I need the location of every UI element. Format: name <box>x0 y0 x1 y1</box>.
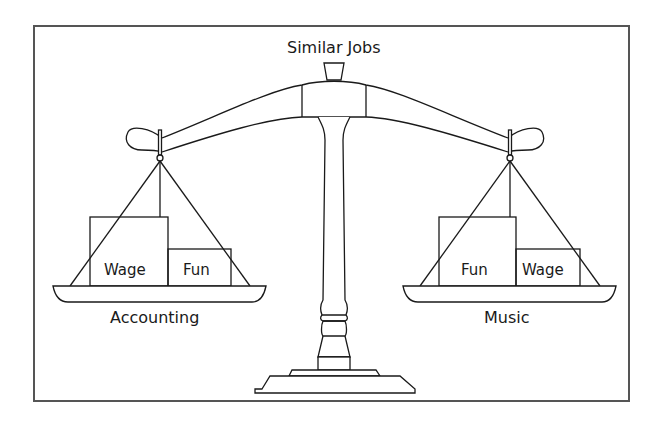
scale-base <box>289 370 380 376</box>
scale-knob <box>324 63 344 80</box>
beam-end-right <box>508 128 544 152</box>
music-wage-label: Wage <box>522 263 564 278</box>
accounting-fun-label: Fun <box>183 263 210 278</box>
music-pan-label: Music <box>484 310 530 326</box>
music-pan <box>403 286 616 302</box>
beam-end-left <box>126 128 162 152</box>
accounting-pan-label: Accounting <box>110 310 199 326</box>
diagram-title: Similar Jobs <box>287 40 381 56</box>
music-fun-label: Fun <box>461 263 488 278</box>
accounting-wage-label: Wage <box>104 263 146 278</box>
accounting-pan <box>53 286 266 302</box>
balance-scale-illustration <box>0 0 664 423</box>
scale-column <box>318 117 350 315</box>
